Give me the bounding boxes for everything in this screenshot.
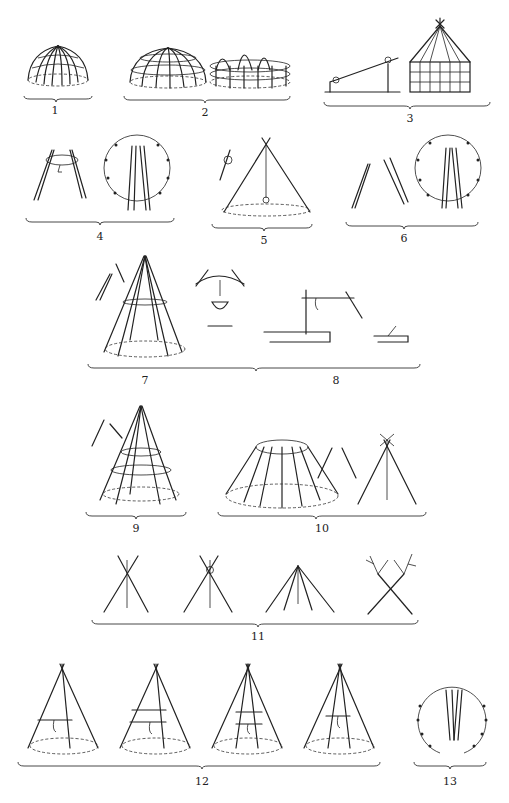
figure-label-10: 10: [307, 522, 337, 535]
figure-13-pole-circle-plan: [414, 687, 488, 769]
figure-7-conical-frame: [96, 256, 185, 357]
figure-label-2: 2: [190, 106, 220, 119]
figure-12-conical-tents: [18, 664, 380, 769]
figure-label-1: 1: [40, 104, 70, 117]
figure-label-3: 3: [395, 112, 425, 125]
figure-5-tripod-kettle: [212, 138, 312, 231]
figure-10-truncated-cone-and-tripod: [218, 434, 426, 519]
figure-label-9: 9: [121, 522, 151, 535]
plate-drawings: [0, 0, 509, 803]
illustration-plate: 1 2 3 4 5 6 7 8 9 10 11 12 13: [0, 0, 509, 803]
figure-label-6: 6: [389, 232, 419, 245]
figure-4-pole-pair-and-plan: [26, 135, 174, 225]
figure-label-13: 13: [435, 775, 465, 788]
tent-a: [28, 664, 98, 754]
figure-label-7: 7: [130, 374, 160, 387]
brace-7-8: [88, 364, 420, 371]
figure-6-forked-poles-and-plan: [346, 135, 481, 229]
figure-9-hoop-cone: [86, 406, 186, 519]
tent-d: [304, 664, 374, 754]
tent-b: [120, 664, 190, 754]
figure-2-hoop-domes: [124, 48, 290, 103]
figure-3-log-house: [324, 18, 490, 109]
figure-label-4: 4: [85, 230, 115, 243]
figure-11-tripod-tyings: [92, 554, 418, 627]
figure-8-hearth-hangers: [196, 270, 408, 342]
figure-1-dome-frame: [24, 46, 92, 102]
figure-label-11: 11: [243, 630, 273, 643]
figure-label-12: 12: [187, 775, 217, 788]
figure-label-8: 8: [321, 374, 351, 387]
tent-c: [212, 664, 282, 754]
figure-label-5: 5: [249, 234, 279, 247]
